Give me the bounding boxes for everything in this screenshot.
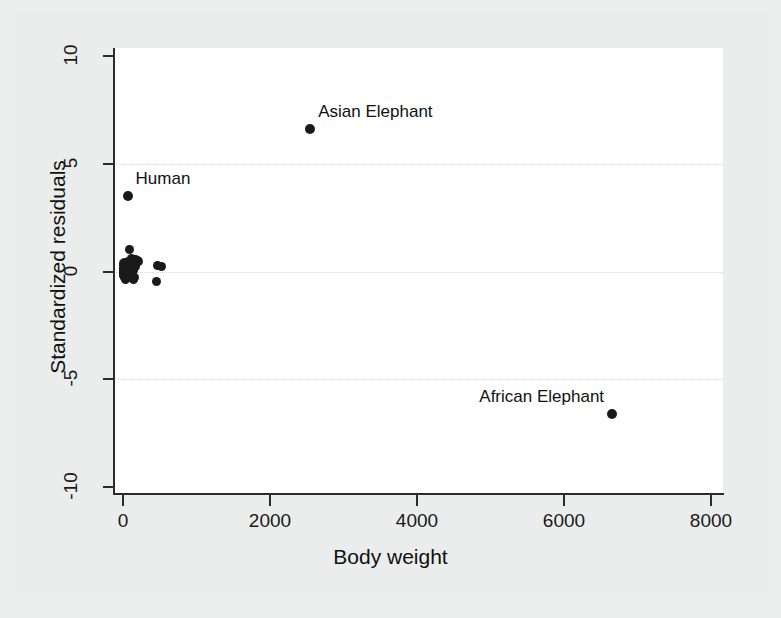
x-tick-label-0: 0 xyxy=(118,510,129,532)
x-tick-4000 xyxy=(416,495,418,506)
scatter-plot-figure: 1050-5-10 02000400060008000 Asian Elepha… xyxy=(0,0,781,618)
x-tick-6000 xyxy=(563,495,565,506)
data-point-human xyxy=(123,191,133,201)
data-point xyxy=(157,262,166,271)
y-tick-10 xyxy=(103,55,114,57)
x-tick-label-6000: 6000 xyxy=(543,510,585,532)
gridline-y-5 xyxy=(114,164,723,165)
x-tick-8000 xyxy=(710,495,712,506)
data-point-asian-elephant xyxy=(305,124,315,134)
x-tick-label-8000: 8000 xyxy=(690,510,732,532)
annotation-human: Human xyxy=(136,169,191,189)
y-tick-0 xyxy=(103,271,114,273)
y-tick--10 xyxy=(103,486,114,488)
x-tick-label-2000: 2000 xyxy=(249,510,291,532)
data-point xyxy=(125,245,134,254)
x-tick-label-4000: 4000 xyxy=(396,510,438,532)
annotation-african-elephant: African Elephant xyxy=(479,387,604,407)
y-tick--5 xyxy=(103,378,114,380)
y-tick-5 xyxy=(103,163,114,165)
gridline-y-0 xyxy=(114,272,723,273)
x-axis-title: Body weight xyxy=(0,545,781,569)
x-axis-spine xyxy=(113,493,724,495)
annotation-asian-elephant: Asian Elephant xyxy=(318,102,432,122)
y-axis-title: Standardized residuals xyxy=(46,67,70,467)
gridline-y--5 xyxy=(114,379,723,380)
data-point-african-elephant xyxy=(607,409,617,419)
x-tick-0 xyxy=(122,495,124,506)
x-tick-2000 xyxy=(269,495,271,506)
data-point xyxy=(152,277,161,286)
